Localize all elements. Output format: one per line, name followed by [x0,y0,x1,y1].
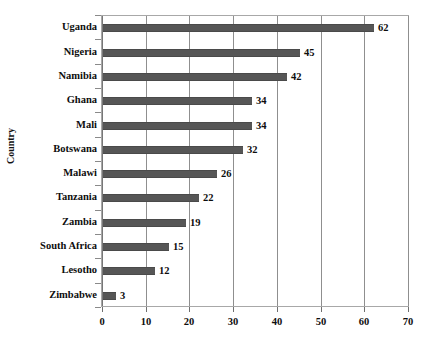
bar-value-label: 22 [203,192,214,203]
bar [103,146,243,154]
gridline-x-40 [277,16,278,306]
plot-inner: 62454234343226221915123 [102,16,408,306]
bar [103,49,300,57]
y-axis-tick [95,88,101,89]
bar-value-label: 19 [190,217,201,228]
y-axis-tick-label: Tanzania [18,191,97,202]
y-axis-tick-label: Namibia [18,70,97,81]
y-axis-tick-label: Botswana [18,143,97,154]
y-axis-tick [95,307,101,308]
y-axis-line [102,16,103,306]
bar [103,24,374,32]
bar-chart: Country UgandaNigeriaNamibiaGhanaMaliBot… [0,0,435,344]
y-axis-tick-label: South Africa [18,240,97,251]
bar-value-label: 34 [256,95,267,106]
x-axis-tick-label: 70 [393,316,423,328]
bar [103,243,169,251]
y-axis-tick-label: Malawi [18,167,97,178]
y-axis-tick-label: Nigeria [18,46,97,57]
y-axis-tick-label: Zambia [18,216,97,227]
bar-value-label: 62 [378,22,389,33]
x-axis-tick [364,307,365,312]
x-axis-tick-label: 0 [87,316,117,328]
y-axis-tick [95,234,101,235]
gridline-x-30 [233,16,234,306]
bar [103,122,252,130]
y-axis-tick-label: Ghana [18,94,97,105]
y-axis-tick [95,112,101,113]
y-axis-tick [95,185,101,186]
y-axis-tick [95,137,101,138]
bar-value-label: 12 [159,265,170,276]
scan-artifact-band [0,0,435,6]
y-axis-tick [95,15,101,16]
y-axis-title: Country [5,114,19,178]
x-axis-tick [102,307,103,312]
x-axis-tick-label: 30 [218,316,248,328]
bar-value-label: 45 [304,47,315,58]
x-axis-tick-label: 60 [349,316,379,328]
y-axis-tick-label: Mali [18,119,97,130]
gridline-x-70 [408,16,409,306]
y-axis-category-labels: UgandaNigeriaNamibiaGhanaMaliBotswanaMal… [18,15,97,307]
y-axis-tick-label: Lesotho [18,264,97,275]
bar-value-label: 3 [120,290,125,301]
bar [103,292,116,300]
x-axis-tick-label: 20 [174,316,204,328]
plot-area: 62454234343226221915123 [101,15,409,307]
gridline-x-10 [146,16,147,306]
y-axis-tick-label: Uganda [18,21,97,32]
x-axis-tick-label: 40 [262,316,292,328]
y-axis-tick [95,39,101,40]
y-axis-tick [95,64,101,65]
bar [103,194,199,202]
x-axis-tick [277,307,278,312]
bar [103,267,155,275]
x-axis-tick [408,307,409,312]
x-axis-tick [233,307,234,312]
x-axis-tick-label: 10 [131,316,161,328]
x-axis-tick [321,307,322,312]
y-axis-tick [95,161,101,162]
bar-value-label: 42 [291,71,302,82]
bar [103,97,252,105]
bar-value-label: 34 [256,120,267,131]
bar [103,219,186,227]
y-axis-tick [95,283,101,284]
bar-value-label: 15 [173,241,184,252]
x-axis-tick [146,307,147,312]
gridline-x-50 [321,16,322,306]
y-axis-tick [95,210,101,211]
bar-value-label: 26 [221,168,232,179]
x-axis-tick-label: 50 [306,316,336,328]
y-axis-tick-label: Zimbabwe [18,289,97,300]
gridline-x-20 [189,16,190,306]
y-axis-tick [95,258,101,259]
bar [103,170,217,178]
x-axis-tick [189,307,190,312]
gridline-x-60 [364,16,365,306]
bar [103,73,287,81]
bar-value-label: 32 [247,144,258,155]
